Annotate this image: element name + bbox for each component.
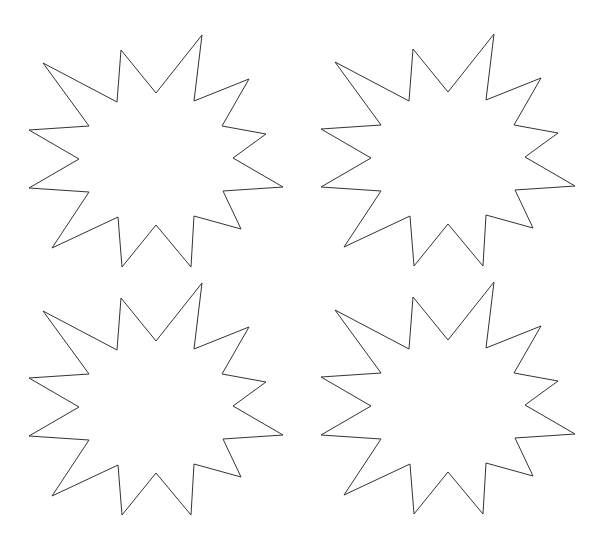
starburst-canvas <box>0 0 608 552</box>
starburst-top-left <box>29 35 283 267</box>
starburst-top-right <box>321 34 575 266</box>
starburst-bottom-left <box>29 283 283 515</box>
starburst-bottom-right <box>321 282 575 514</box>
